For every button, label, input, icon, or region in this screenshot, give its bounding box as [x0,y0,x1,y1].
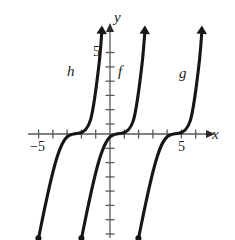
y-axis-arrowhead [106,23,114,32]
y-tick-label-5: 5 [93,45,100,59]
coordinate-plane [0,0,235,240]
curve-f [78,26,150,240]
y-axis-label: y [114,10,121,25]
curve-label-h: h [67,64,75,79]
curve-label-f: f [118,64,122,79]
curve-g-arrowhead-top [197,26,208,35]
curve-label-g: g [179,66,187,81]
curve-f-arrowhead-top [140,26,151,35]
x-axis-label: x [212,127,219,142]
y-axis [106,23,115,238]
curve-h-arrowhead-top [97,26,108,35]
x-tick-label-5: 5 [178,140,185,154]
x-tick-label-neg5: −5 [30,140,45,154]
graph-figure: x y −5 5 5 h f g [0,0,235,240]
